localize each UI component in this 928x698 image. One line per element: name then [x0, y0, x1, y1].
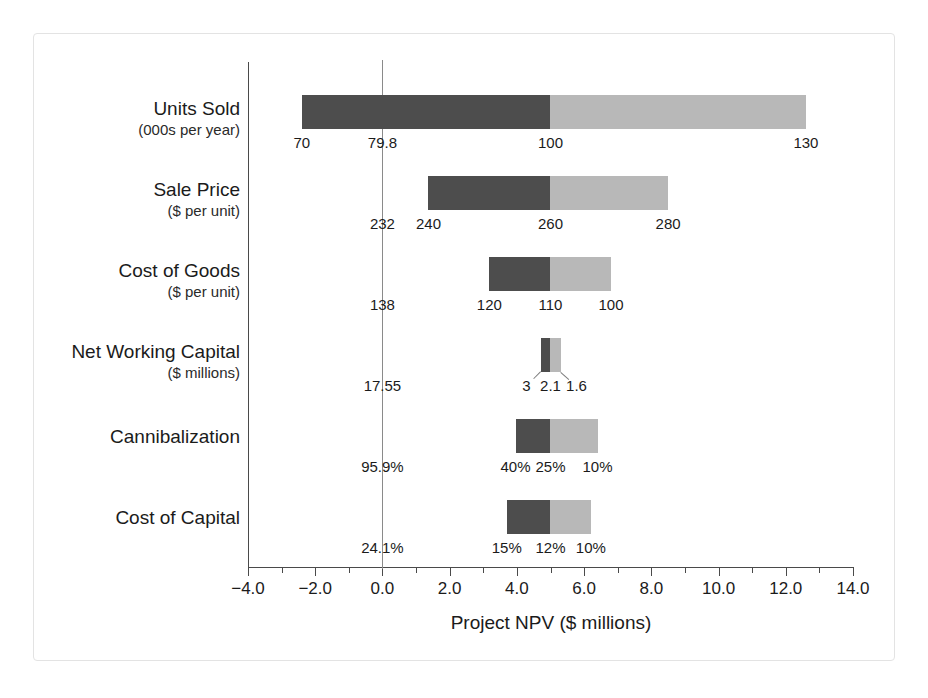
x-tick-label: 0.0	[371, 579, 395, 599]
category-name: Units Sold	[138, 97, 240, 120]
high-input-label: 10%	[576, 539, 606, 556]
x-tick-major	[315, 567, 316, 576]
x-tick-label: 10.0	[702, 579, 735, 599]
x-tick-label: 12.0	[769, 579, 802, 599]
low-input-label: 240	[416, 215, 441, 232]
category-label: Sale Price($ per unit)	[153, 178, 240, 220]
category-label: Units Sold(000s per year)	[138, 97, 240, 139]
x-tick-major	[450, 567, 451, 576]
x-tick-label: 6.0	[572, 579, 596, 599]
category-name: Net Working Capital	[71, 340, 240, 363]
x-tick-major	[786, 567, 787, 576]
category-label: Cost of Goods($ per unit)	[119, 259, 240, 301]
category-unit: ($ per unit)	[153, 201, 240, 220]
base-input-label: 24.1%	[361, 539, 404, 556]
bar-segment-high	[550, 257, 611, 291]
mid-input-label: 2.1	[540, 377, 561, 394]
base-input-label: 232	[370, 215, 395, 232]
tornado-bar	[302, 95, 806, 129]
low-input-label: 70	[293, 134, 310, 151]
base-input-label: 138	[370, 296, 395, 313]
high-input-label: 1.6	[566, 377, 587, 394]
low-input-label: 120	[477, 296, 502, 313]
x-tick-minor	[416, 567, 417, 573]
tornado-bar	[541, 338, 560, 372]
bar-segment-high	[550, 500, 590, 534]
x-tick-label: −4.0	[231, 579, 265, 599]
figure-canvas: −4.0−2.00.02.04.06.08.010.012.014.0 Unit…	[0, 0, 928, 698]
tornado-chart-plot: −4.0−2.00.02.04.06.08.010.012.014.0 Unit…	[0, 0, 928, 698]
x-tick-label: 8.0	[640, 579, 664, 599]
x-tick-minor	[618, 567, 619, 573]
mid-input-label: 100	[538, 134, 563, 151]
x-tick-label: 14.0	[836, 579, 869, 599]
category-label: Net Working Capital($ millions)	[71, 340, 240, 382]
x-tick-major	[719, 567, 720, 576]
x-tick-major	[248, 567, 249, 576]
x-tick-minor	[819, 567, 820, 573]
mid-input-label: 260	[538, 215, 563, 232]
x-tick-minor	[483, 567, 484, 573]
bar-segment-high	[550, 338, 560, 372]
x-tick-label: −2.0	[298, 579, 332, 599]
base-input-label: 79.8	[368, 134, 397, 151]
high-input-label: 100	[598, 296, 623, 313]
category-unit: ($ per unit)	[119, 282, 240, 301]
tornado-bar	[428, 176, 668, 210]
low-input-label: 15%	[492, 539, 522, 556]
x-tick-major	[853, 567, 854, 576]
bar-segment-low	[541, 338, 550, 372]
bar-segment-high	[550, 176, 668, 210]
x-tick-major	[651, 567, 652, 576]
tornado-bar	[516, 419, 598, 453]
x-tick-minor	[752, 567, 753, 573]
bar-segment-low	[428, 176, 550, 210]
category-name: Cost of Capital	[115, 506, 240, 529]
tornado-bar	[489, 257, 611, 291]
category-name: Cannibalization	[110, 425, 240, 448]
x-tick-major	[584, 567, 585, 576]
x-tick-minor	[685, 567, 686, 573]
high-input-label: 280	[656, 215, 681, 232]
category-name: Sale Price	[153, 178, 240, 201]
category-axis-line	[248, 62, 249, 567]
category-label: Cost of Capital	[115, 506, 240, 529]
low-input-label: 40%	[501, 458, 531, 475]
high-input-label: 130	[793, 134, 818, 151]
bar-segment-low	[489, 257, 550, 291]
x-tick-minor	[282, 567, 283, 573]
x-tick-label: 4.0	[505, 579, 529, 599]
category-unit: ($ millions)	[71, 363, 240, 382]
category-unit: (000s per year)	[138, 120, 240, 139]
bar-segment-low	[302, 95, 551, 129]
bar-segment-high	[550, 95, 805, 129]
mid-input-label: 25%	[535, 458, 565, 475]
x-tick-minor	[551, 567, 552, 573]
x-axis-title: Project NPV ($ millions)	[248, 612, 854, 634]
bar-segment-high	[550, 419, 597, 453]
high-input-label: 10%	[583, 458, 613, 475]
x-tick-minor	[349, 567, 350, 573]
bar-segment-low	[516, 419, 551, 453]
category-label: Cannibalization	[110, 425, 240, 448]
category-name: Cost of Goods	[119, 259, 240, 282]
base-input-label: 17.55	[364, 377, 402, 394]
label-leader-line	[560, 372, 569, 380]
x-tick-label: 2.0	[438, 579, 462, 599]
x-tick-major	[517, 567, 518, 576]
mid-input-label: 12%	[535, 539, 565, 556]
bar-segment-low	[507, 500, 551, 534]
low-input-label: 3	[522, 377, 530, 394]
mid-input-label: 110	[539, 296, 563, 313]
tornado-bar	[507, 500, 591, 534]
base-input-label: 95.9%	[361, 458, 404, 475]
